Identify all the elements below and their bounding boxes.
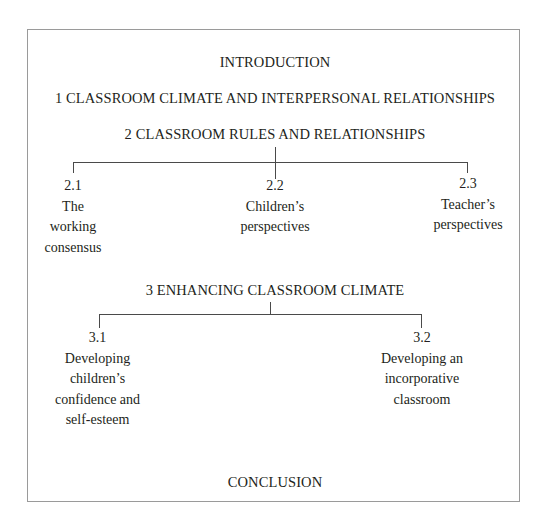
subsection-number: 2.2 xyxy=(225,176,325,197)
subsection-3-1-connector xyxy=(99,314,100,328)
subsection-number: 3.1 xyxy=(40,328,155,349)
subsection-2-1: 2.1 The working consensus xyxy=(33,176,113,258)
section-2-stem-connector xyxy=(275,147,276,179)
subsection-label-line: consensus xyxy=(33,238,113,259)
subsection-3-1: 3.1 Developing children’s confidence and… xyxy=(40,328,155,431)
section-3-heading: 3 ENHANCING CLASSROOM CLIMATE xyxy=(0,281,550,299)
section-3-branch-connector xyxy=(99,314,422,315)
subsection-label-line: working xyxy=(33,217,113,238)
subsection-number: 2.3 xyxy=(413,174,523,195)
subsection-label-line: Developing xyxy=(40,349,155,370)
section-2-heading: 2 CLASSROOM RULES AND RELATIONSHIPS xyxy=(0,125,550,143)
subsection-label-line: The xyxy=(33,197,113,218)
subsection-label-line: Teacher’s xyxy=(413,195,523,216)
subsection-label-line: Developing an xyxy=(362,349,482,370)
subsection-2-1-connector xyxy=(73,162,74,173)
section-2-branch-connector xyxy=(73,162,468,163)
introduction-heading: INTRODUCTION xyxy=(0,53,550,71)
subsection-3-2-connector xyxy=(421,314,422,328)
subsection-label-line: Children’s xyxy=(225,197,325,218)
subsection-label-line: self-esteem xyxy=(40,410,155,431)
subsection-number: 2.1 xyxy=(33,176,113,197)
section-3-stem-connector xyxy=(270,302,271,314)
subsection-label-line: incorporative xyxy=(362,369,482,390)
subsection-2-3-connector xyxy=(467,162,468,173)
subsection-3-2: 3.2 Developing an incorporative classroo… xyxy=(362,328,482,410)
subsection-label-line: perspectives xyxy=(225,217,325,238)
subsection-2-2: 2.2 Children’s perspectives xyxy=(225,176,325,238)
subsection-label-line: classroom xyxy=(362,390,482,411)
subsection-2-3: 2.3 Teacher’s perspectives xyxy=(413,174,523,236)
subsection-label-line: children’s xyxy=(40,369,155,390)
conclusion-heading: CONCLUSION xyxy=(0,473,550,491)
subsection-label-line: confidence and xyxy=(40,390,155,411)
subsection-number: 3.2 xyxy=(362,328,482,349)
subsection-label-line: perspectives xyxy=(413,215,523,236)
section-1-heading: 1 CLASSROOM CLIMATE AND INTERPERSONAL RE… xyxy=(0,89,550,107)
